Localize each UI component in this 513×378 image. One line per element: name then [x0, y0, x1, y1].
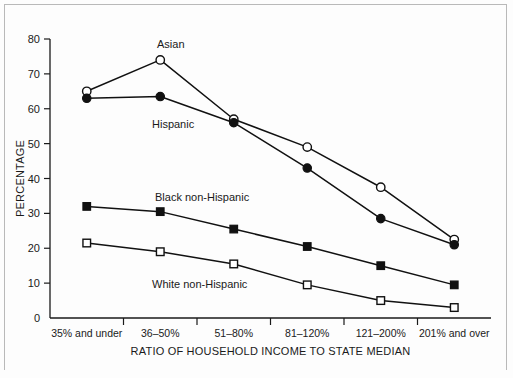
- y-axis-tick-label: 20: [28, 242, 40, 254]
- data-point-open-square: [156, 248, 164, 256]
- y-axis-tick-label: 0: [34, 312, 40, 324]
- y-axis-tick-label: 40: [28, 173, 40, 185]
- series-annotation-label: Hispanic: [152, 118, 195, 130]
- series-annotation-label: Asian: [157, 38, 185, 50]
- data-point-filled-square: [450, 281, 458, 289]
- y-axis-tick-label: 70: [28, 68, 40, 80]
- series-line: [87, 97, 455, 245]
- data-point-open-square: [83, 239, 91, 247]
- data-point-filled-square: [156, 208, 164, 216]
- data-point-filled-circle: [83, 94, 91, 102]
- data-point-filled-circle: [377, 214, 385, 222]
- data-point-open-square: [377, 297, 385, 305]
- line-chart-canvas: 0102030405060708035% and under36–50%51–8…: [0, 0, 513, 378]
- y-axis-tick-label: 60: [28, 103, 40, 115]
- y-axis-tick-label: 50: [28, 138, 40, 150]
- data-point-filled-circle: [230, 119, 238, 127]
- data-point-filled-square: [377, 262, 385, 270]
- series-line: [87, 206, 455, 284]
- y-axis-title: PERCENTAGE: [14, 140, 26, 217]
- data-point-open-square: [230, 260, 238, 268]
- series-black-non-hispanic: [83, 203, 458, 289]
- series-line: [87, 60, 455, 240]
- series-asian: [83, 56, 459, 244]
- data-point-open-circle: [377, 183, 385, 191]
- y-axis-tick-label: 10: [28, 277, 40, 289]
- data-point-filled-circle: [156, 92, 164, 100]
- data-point-filled-circle: [303, 164, 311, 172]
- y-axis-tick-label: 80: [28, 33, 40, 45]
- series-hispanic: [83, 92, 459, 249]
- chart-figure: 0102030405060708035% and under36–50%51–8…: [0, 0, 513, 378]
- x-axis-category-label: 36–50%: [141, 327, 180, 339]
- x-axis-category-label: 35% and under: [51, 327, 123, 339]
- data-point-open-square: [450, 304, 458, 312]
- x-axis-category-label: 121–200%: [356, 327, 406, 339]
- y-axis-tick-label: 30: [28, 207, 40, 219]
- x-axis-category-label: 201% and over: [419, 327, 490, 339]
- data-point-open-circle: [156, 56, 164, 64]
- data-point-open-square: [303, 281, 311, 289]
- series-white-non-hispanic: [83, 239, 458, 311]
- series-line: [87, 243, 455, 308]
- series-annotation-label: Black non-Hispanic: [155, 191, 250, 203]
- data-point-filled-circle: [450, 241, 458, 249]
- data-point-filled-square: [230, 225, 238, 233]
- x-axis-title: RATIO OF HOUSEHOLD INCOME TO STATE MEDIA…: [131, 345, 411, 357]
- series-annotation-label: White non-Hispanic: [152, 278, 248, 290]
- x-axis-category-label: 81–120%: [285, 327, 329, 339]
- data-point-filled-square: [83, 203, 91, 211]
- data-point-open-circle: [303, 143, 311, 151]
- data-point-filled-square: [303, 243, 311, 251]
- x-axis-category-label: 51–80%: [214, 327, 253, 339]
